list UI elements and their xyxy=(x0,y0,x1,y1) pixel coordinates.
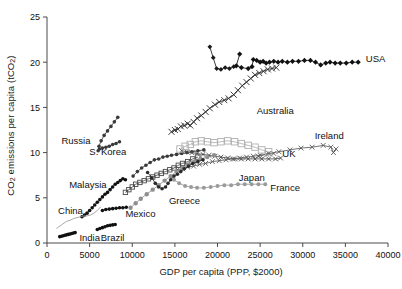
x-tick-label: 20000 xyxy=(205,250,230,260)
data-point-marker xyxy=(157,157,161,161)
data-point-marker xyxy=(146,171,150,175)
data-point-marker xyxy=(275,60,280,65)
data-point-marker xyxy=(106,191,110,195)
data-point-marker xyxy=(344,61,349,66)
data-point-marker xyxy=(113,120,117,124)
series-australia xyxy=(168,65,279,135)
data-point-marker xyxy=(219,67,224,72)
data-point-marker xyxy=(172,178,176,182)
data-point-marker xyxy=(93,203,97,207)
series-label-japan: Japan xyxy=(239,172,265,183)
data-point-marker xyxy=(161,155,165,159)
x-tick-label: 40000 xyxy=(375,250,400,260)
y-tick-label: 0 xyxy=(35,238,40,248)
y-tick-label: 5 xyxy=(35,193,40,203)
x-tick-label: 35000 xyxy=(333,250,358,260)
series-label-brazil: Brazil xyxy=(101,232,125,243)
data-point-marker xyxy=(73,231,77,235)
data-point-marker xyxy=(109,125,113,129)
plot-area: 0500010000150002000025000300003500040000… xyxy=(0,0,402,289)
data-point-marker xyxy=(148,161,152,165)
series-label-france: France xyxy=(270,182,300,193)
data-point-marker xyxy=(139,197,143,201)
data-point-marker xyxy=(280,59,285,64)
data-point-marker xyxy=(101,209,105,213)
data-point-marker xyxy=(179,170,183,174)
data-point-marker xyxy=(237,51,242,56)
series-mexico xyxy=(101,205,128,212)
data-point-marker xyxy=(285,60,290,65)
data-point-marker xyxy=(150,176,154,180)
data-point-marker xyxy=(153,182,157,186)
data-point-marker xyxy=(176,172,180,176)
x-tick-label: 10000 xyxy=(120,250,145,260)
data-point-marker xyxy=(239,65,244,70)
data-point-marker xyxy=(136,170,140,174)
series-label-s-korea: S. Korea xyxy=(89,146,127,157)
data-point-marker xyxy=(271,59,276,64)
data-point-marker xyxy=(101,195,105,199)
data-point-marker xyxy=(195,186,199,190)
series-india xyxy=(58,231,77,239)
data-point-marker xyxy=(323,61,328,66)
data-point-marker xyxy=(124,178,128,182)
data-point-marker xyxy=(90,206,94,210)
data-point-marker xyxy=(113,223,117,227)
x-tick-label: 30000 xyxy=(290,250,315,260)
data-point-marker xyxy=(118,140,122,144)
x-tick-label: 5000 xyxy=(80,250,100,260)
series-label-india: India xyxy=(79,232,100,243)
series-dark-cluster-d xyxy=(207,44,236,71)
data-point-marker xyxy=(140,166,144,170)
data-point-marker xyxy=(166,182,170,186)
data-point-marker xyxy=(189,185,193,189)
data-point-marker xyxy=(164,185,168,189)
data-point-marker xyxy=(162,178,166,182)
data-point-marker xyxy=(333,61,338,66)
data-point-marker xyxy=(160,187,164,191)
data-point-marker xyxy=(107,207,111,211)
data-point-marker xyxy=(169,178,173,182)
co2-gdp-scatter-chart: CO2 emissions per capita (tCO2) 05000100… xyxy=(0,0,402,289)
data-point-marker xyxy=(223,65,228,70)
data-point-marker xyxy=(121,206,125,210)
x-axis-label: GDP per capita (PPP, $2000) xyxy=(0,266,402,277)
data-point-marker xyxy=(227,66,232,71)
data-point-marker xyxy=(209,185,213,189)
data-point-marker xyxy=(172,174,176,178)
y-tick-label: 15 xyxy=(30,103,40,113)
x-tick-label: 15000 xyxy=(162,250,187,260)
data-point-marker xyxy=(212,153,216,157)
data-point-marker xyxy=(177,181,181,185)
data-point-marker xyxy=(102,134,106,138)
data-point-marker xyxy=(114,206,118,210)
data-point-marker xyxy=(99,139,103,143)
series-label-malaysia: Malaysia xyxy=(69,179,107,190)
series-brazil xyxy=(95,223,117,232)
data-point-marker xyxy=(118,206,122,210)
y-tick-label: 20 xyxy=(30,58,40,68)
data-point-marker xyxy=(111,185,115,189)
data-point-marker xyxy=(144,163,148,167)
series-label-mexico: Mexico xyxy=(125,208,155,219)
data-point-marker xyxy=(98,198,102,202)
data-point-marker xyxy=(290,59,295,64)
series-label-ireland: Ireland xyxy=(315,130,344,141)
data-point-marker xyxy=(350,60,355,65)
data-point-marker xyxy=(85,211,89,215)
x-tick-label: 25000 xyxy=(248,250,273,260)
data-point-marker xyxy=(165,154,169,158)
data-point-marker xyxy=(318,62,323,67)
x-tick-label: 0 xyxy=(44,250,49,260)
data-point-marker xyxy=(202,186,206,190)
series-label-russia: Russia xyxy=(61,135,91,146)
series-label-greece: Greece xyxy=(169,195,200,206)
data-point-marker xyxy=(104,208,108,212)
data-point-marker xyxy=(106,129,110,133)
data-point-marker xyxy=(133,201,137,205)
data-point-marker xyxy=(229,183,233,187)
data-point-marker xyxy=(175,153,179,157)
data-point-marker xyxy=(187,164,191,168)
data-point-marker xyxy=(191,162,195,166)
y-tick-label: 10 xyxy=(30,148,40,158)
